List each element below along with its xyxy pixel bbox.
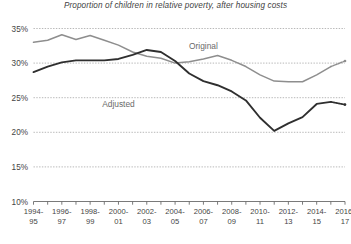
y-tick-label-35: 35% [12,25,28,34]
y-tick-label-15: 15% [12,163,28,172]
x-tick-label-2000-01: 2000-01 [109,207,129,226]
series-line-projected-original [331,61,345,67]
y-tick-label-20: 20% [12,128,28,137]
chart-container: Proportion of children in relative pover… [0,0,351,244]
x-tick-label-2012-13: 2012-13 [279,207,299,226]
y-tick-label-25: 25% [12,94,28,103]
series-endpoint-adjusted [344,103,347,106]
series-inline-label-adjusted: Adjusted [102,99,135,109]
series-line-projected-adjusted [331,102,345,105]
x-tick-label-2004-05: 2004-05 [165,207,185,226]
y-axis-tick-labels: 35%30%25%20%15%10% [12,25,28,207]
y-tick-label-30: 30% [12,59,28,68]
x-tick-label-2002-03: 2002-03 [137,207,157,226]
x-tick-label-2014-15: 2014-15 [307,207,327,226]
series-inline-label-original: Original [189,41,218,51]
x-axis-line-and-ticks [34,202,346,205]
series-line-original [34,35,331,82]
x-tick-label-1996-97: 1996-97 [52,207,72,226]
chart-plot-area: 35%30%25%20%15%10% 1994-951996-971998-99… [0,0,351,244]
x-tick-label-2008-09: 2008-09 [222,207,242,226]
x-tick-label-2006-07: 2006-07 [194,207,214,226]
x-tick-label-2016-17: 2016-17 [335,207,351,226]
x-axis-tick-labels: 1994-951996-971998-992000-012002-032004-… [24,207,351,226]
x-tick-label-1998-99: 1998-99 [80,207,100,226]
x-tick-label-1994-95: 1994-95 [24,207,44,226]
y-tick-label-10: 10% [12,198,28,207]
x-tick-label-2010-11: 2010-11 [250,207,270,226]
series-endpoint-original [344,60,347,63]
